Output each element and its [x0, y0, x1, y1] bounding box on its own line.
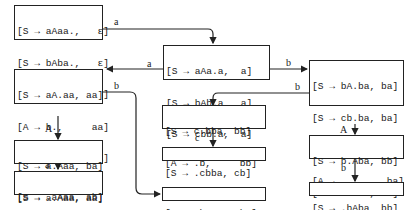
edge-label-s7-s8: a [45, 160, 49, 170]
item: [S → aAaa., ε] [17, 27, 100, 38]
state-s6: [S → .cbba, cb] [162, 147, 266, 161]
item: [S → aAa.a, a] [166, 67, 267, 78]
item: [S → aA.aa, aa] [17, 91, 100, 102]
item: [S → c.bba, bb] [165, 127, 263, 138]
edge-label-s2-s3: b [286, 58, 291, 68]
item: [S → .cbba, cb] [165, 169, 263, 180]
edge-s1-s2 [103, 29, 213, 43]
state-s4: [S → aA.aa, aa] [A → b., aa] [A → ., aa] [14, 69, 103, 104]
state-s2: [S → aAa.a, a] [S → bAb.a, a] [S → cbb.a… [163, 45, 270, 80]
item: [S → .aAaa, ab] [17, 193, 100, 204]
edge-label-s2-s4: a [147, 59, 151, 69]
item: [S → .bAba, bb] [312, 204, 401, 210]
state-s1: [S → aAaa., ε] [S → bAba., ε] [S → cbba.… [14, 5, 103, 40]
item: [A → .b, ba] [165, 209, 263, 210]
item: [S → cb.ba, ba] [312, 114, 401, 125]
state-s9: [A → .b, ba] [162, 187, 266, 201]
state-s11: [S → .bAba, bb] [309, 182, 404, 196]
state-s8: [S → .aAaa, ab] [S → .aAaa, aa] [14, 171, 103, 195]
state-s3: [S → bA.ba, ba] [S → cb.ba, ba] [A → b.,… [309, 60, 404, 106]
edge-label-s1-s2: a [114, 17, 118, 27]
item: [A → b., aa] [17, 123, 100, 134]
edge-label-s4-s9: b [114, 81, 119, 91]
item: [S → b.Aba, bb] [312, 157, 401, 168]
edge-label-s3-s5: b [295, 82, 300, 92]
state-s7: [S → a.Aaa, ba] [S → a.Aaa, aa] [14, 140, 103, 164]
state-s5: [S → c.bba, bb] [A → .b, bb] [162, 105, 266, 129]
edge-label-s4-s7: A [45, 124, 52, 134]
item: [S → bAba., ε] [17, 59, 100, 70]
edge-label-s5-s6: c [195, 133, 199, 143]
item: [S → bA.ba, ba] [312, 82, 401, 93]
edge-label-s10-s11: b [341, 163, 346, 173]
state-s10: [S → b.Aba, bb] [S → b.Aba, ba] [309, 135, 404, 159]
edge-label-s3-s10: A [340, 125, 347, 135]
edge-s4-s9 [103, 92, 160, 194]
